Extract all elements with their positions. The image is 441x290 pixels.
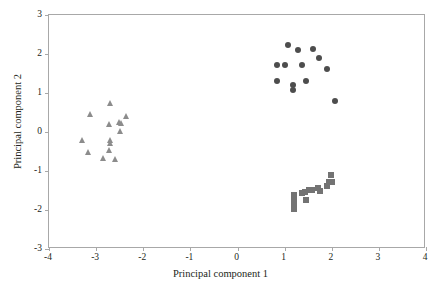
y-tick-mark: [45, 171, 49, 172]
y-tick-mark: [45, 132, 49, 133]
x-axis-label: Principal component 1: [0, 268, 441, 279]
x-tick-mark: [96, 247, 97, 251]
x-tick-label: 4: [412, 252, 438, 262]
x-tick-mark: [49, 247, 50, 251]
x-tick-label: 0: [224, 252, 250, 262]
data-point-square: [291, 196, 297, 202]
data-point-triangle: [123, 113, 129, 119]
x-tick-mark: [143, 247, 144, 251]
data-point-triangle: [100, 155, 106, 161]
data-point-triangle: [118, 120, 124, 126]
data-point-triangle: [79, 137, 85, 143]
x-tick-label: -3: [82, 252, 108, 262]
x-tick-label: -2: [129, 252, 155, 262]
x-tick-mark: [426, 247, 427, 251]
data-point-triangle: [85, 149, 91, 155]
scatter-plot-figure: Principal component 1 Principal componen…: [0, 0, 441, 290]
y-tick-mark: [45, 249, 49, 250]
data-point-triangle: [106, 121, 112, 127]
y-tick-mark: [45, 54, 49, 55]
data-point-square: [303, 197, 309, 203]
data-point-square: [328, 172, 334, 178]
data-point-square: [291, 206, 297, 212]
y-tick-label: 1: [26, 87, 42, 97]
data-point-circle: [303, 78, 309, 84]
y-tick-label: -3: [26, 243, 42, 253]
data-point-square: [299, 190, 305, 196]
y-tick-label: 3: [26, 9, 42, 19]
x-tick-label: -1: [176, 252, 202, 262]
data-point-triangle: [112, 156, 118, 162]
data-point-triangle: [107, 100, 113, 106]
y-axis-label: Principal component 2: [12, 47, 23, 197]
data-point-circle: [295, 47, 301, 53]
data-point-square: [317, 188, 323, 194]
x-tick-mark: [332, 247, 333, 251]
data-point-triangle: [107, 140, 113, 146]
y-tick-mark: [45, 210, 49, 211]
x-tick-mark: [285, 247, 286, 251]
data-point-square: [329, 179, 335, 185]
plot-area: [48, 14, 425, 248]
x-tick-label: 2: [318, 252, 344, 262]
x-tick-mark: [238, 247, 239, 251]
x-tick-mark: [190, 247, 191, 251]
data-point-triangle: [117, 128, 123, 134]
y-tick-mark: [45, 93, 49, 94]
x-tick-label: -4: [35, 252, 61, 262]
y-tick-label: 2: [26, 48, 42, 58]
x-tick-label: 1: [271, 252, 297, 262]
data-point-circle: [316, 55, 322, 61]
data-point-triangle: [106, 147, 112, 153]
x-tick-label: 3: [365, 252, 391, 262]
y-tick-label: -1: [26, 165, 42, 175]
y-tick-mark: [45, 15, 49, 16]
data-point-triangle: [87, 111, 93, 117]
y-tick-label: -2: [26, 204, 42, 214]
y-tick-label: 0: [26, 126, 42, 136]
x-tick-mark: [379, 247, 380, 251]
